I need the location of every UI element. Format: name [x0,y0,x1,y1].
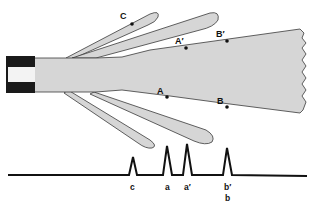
peak-label-a: a [165,182,170,192]
fan-jet-diagram: C A′ B′ A B c a a′ b′ b [0,0,313,206]
peak-label-b-prime: b′ [224,182,231,192]
label-B: B [217,96,224,106]
peak-label-b: b [225,193,230,203]
point-a-prime-dot [184,46,188,50]
peak-label-a-prime: a′ [184,182,191,192]
peak-label-c: c [130,182,135,192]
point-b-prime-dot [225,39,229,43]
label-C: C [120,11,127,21]
point-a-dot [165,95,169,99]
signal-trace [8,144,307,176]
point-c-dot [130,22,134,26]
point-b-dot [225,105,229,109]
label-B-prime: B′ [216,29,225,39]
label-A: A [157,86,164,96]
label-A-prime: A′ [175,36,184,46]
